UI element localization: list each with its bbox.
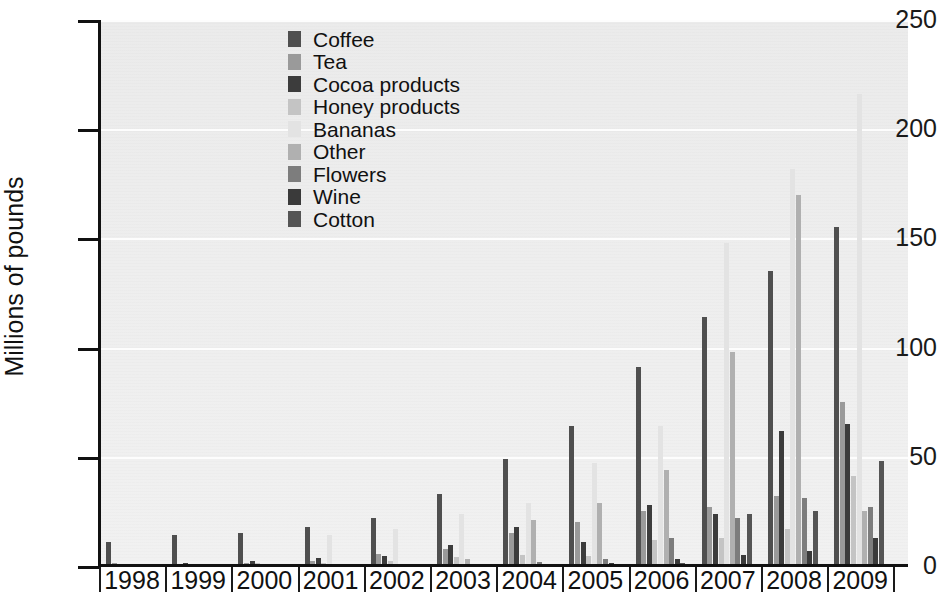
x-axis-label-2009: 2009 <box>832 566 888 595</box>
x-axis-label-2002: 2002 <box>369 566 425 595</box>
x-axis-label-2007: 2007 <box>700 566 756 595</box>
bar-group-1999 <box>172 20 228 566</box>
bar-bananas-2001 <box>327 535 332 566</box>
y-tick-label-150: 150 <box>863 223 937 252</box>
y-axis-line <box>98 20 101 566</box>
bar-tea-2007 <box>707 507 712 566</box>
bar-other-2006 <box>664 470 669 566</box>
legend-label: Tea <box>313 51 347 72</box>
legend-swatch-icon-cotton <box>288 211 301 227</box>
bar-flowers-2008 <box>802 498 807 566</box>
legend-item-cocoa-products[interactable]: Cocoa products <box>288 73 460 96</box>
y-tick-label-200: 200 <box>863 114 937 143</box>
y-tick-150 <box>78 238 100 241</box>
x-axis-label-1998: 1998 <box>104 566 160 595</box>
legend-item-wine[interactable]: Wine <box>288 186 460 209</box>
legend-item-tea[interactable]: Tea <box>288 51 460 74</box>
bar-coffee-2002 <box>371 518 376 566</box>
legend-swatch-icon-cocoa-products <box>288 76 301 92</box>
x-axis-label-1999: 1999 <box>170 566 226 595</box>
legend-label: Cocoa products <box>313 74 460 95</box>
bar-bananas-2002 <box>393 529 398 566</box>
legend-label: Bananas <box>313 119 396 140</box>
bar-tea-2008 <box>774 496 779 566</box>
bar-coffee-2001 <box>305 527 310 566</box>
bar-honey-products-2007 <box>719 538 724 566</box>
bar-honey-products-2008 <box>785 529 790 566</box>
bar-cotton-2007 <box>747 514 752 566</box>
bar-cocoa-products-2006 <box>647 505 652 566</box>
legend-label: Honey products <box>313 96 460 117</box>
y-tick-label-250: 250 <box>863 5 937 34</box>
bar-bananas-2005 <box>592 463 597 566</box>
bar-group-1998 <box>106 20 162 566</box>
legend-label: Other <box>313 141 366 162</box>
bar-cocoa-products-2008 <box>779 431 784 566</box>
bar-coffee-2003 <box>437 494 442 566</box>
legend-item-coffee[interactable]: Coffee <box>288 28 460 51</box>
bar-tea-2006 <box>641 511 646 566</box>
legend-swatch-icon-other <box>288 144 301 160</box>
bar-group-2007 <box>702 20 758 566</box>
x-tick-2004 <box>496 567 498 592</box>
bar-honey-products-2009 <box>851 476 856 566</box>
x-axis-label-2004: 2004 <box>501 566 557 595</box>
bar-cocoa-products-2004 <box>514 527 519 566</box>
y-tick-label-100: 100 <box>863 333 937 362</box>
bar-cotton-2008 <box>813 511 818 566</box>
bar-other-2005 <box>597 503 602 566</box>
legend-swatch-icon-bananas <box>288 121 301 137</box>
x-tick-2006 <box>629 567 631 592</box>
legend-item-cotton[interactable]: Cotton <box>288 208 460 231</box>
bar-bananas-2003 <box>459 514 464 566</box>
bar-cocoa-products-2003 <box>448 545 453 566</box>
bar-group-2008 <box>768 20 824 566</box>
bar-bananas-2008 <box>790 169 795 566</box>
x-tick-1998 <box>99 567 101 592</box>
bar-cocoa-products-2005 <box>581 542 586 566</box>
x-axis-label-2005: 2005 <box>568 566 624 595</box>
bar-tea-2009 <box>840 402 845 566</box>
legend-label: Flowers <box>313 164 387 185</box>
bar-bananas-2009 <box>857 94 862 566</box>
bar-group-2009 <box>834 20 890 566</box>
x-axis-label-2006: 2006 <box>634 566 690 595</box>
bar-coffee-2008 <box>768 271 773 566</box>
x-tick-2005 <box>562 567 564 592</box>
y-tick-50 <box>78 457 100 460</box>
legend-label: Coffee <box>313 29 375 50</box>
x-tick-2008 <box>761 567 763 592</box>
bar-coffee-2006 <box>636 367 641 566</box>
legend-item-bananas[interactable]: Bananas <box>288 118 460 141</box>
y-axis-label: Millions of pounds <box>0 47 29 507</box>
legend-item-other[interactable]: Other <box>288 141 460 164</box>
x-tick-2003 <box>430 567 432 592</box>
x-axis-label-2001: 2001 <box>303 566 359 595</box>
legend-swatch-icon-honey-products <box>288 99 301 115</box>
bar-other-2008 <box>796 195 801 566</box>
bar-coffee-2000 <box>238 533 243 566</box>
legend-swatch-icon-flowers <box>288 166 301 182</box>
bar-other-2007 <box>730 352 735 566</box>
bar-bananas-2007 <box>724 243 729 566</box>
x-tick-2001 <box>298 567 300 592</box>
y-tick-200 <box>78 129 100 132</box>
bar-group-2005 <box>569 20 625 566</box>
legend-swatch-icon-coffee <box>288 31 301 47</box>
bar-tea-2004 <box>509 533 514 566</box>
legend-item-flowers[interactable]: Flowers <box>288 163 460 186</box>
bar-coffee-1999 <box>172 535 177 566</box>
legend-swatch-icon-wine <box>288 189 301 205</box>
bar-flowers-2006 <box>669 538 674 566</box>
x-tick-end <box>893 567 895 592</box>
fair-trade-imports-bar-chart: 250200150100500 Millions of pounds 19981… <box>0 0 937 598</box>
bar-honey-products-2006 <box>652 540 657 566</box>
x-tick-2009 <box>827 567 829 592</box>
x-tick-2002 <box>364 567 366 592</box>
legend-item-honey-products[interactable]: Honey products <box>288 96 460 119</box>
chart-legend: CoffeeTeaCocoa productsHoney productsBan… <box>288 28 460 231</box>
x-axis-label-2008: 2008 <box>766 566 822 595</box>
bar-group-2006 <box>636 20 692 566</box>
legend-label: Wine <box>313 186 361 207</box>
bar-bananas-2004 <box>526 503 531 566</box>
